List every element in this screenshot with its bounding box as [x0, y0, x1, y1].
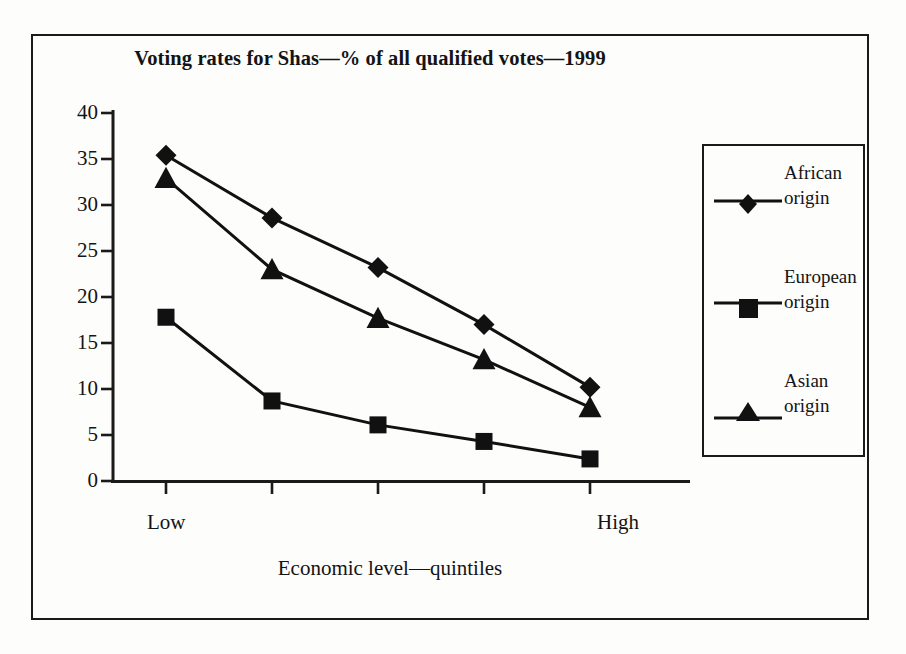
legend-marker-square-icon: [712, 294, 784, 320]
series-line: [166, 317, 590, 459]
data-series-layer: [155, 145, 602, 468]
y-tick-label-20: 20: [58, 284, 98, 309]
series-line: [166, 178, 590, 407]
legend-label-asian-line2: origin: [784, 393, 829, 418]
y-tick-label-5: 5: [58, 422, 98, 447]
data-point-marker: [580, 377, 601, 398]
x-axis-label-low: Low: [147, 510, 186, 535]
legend-label-african-line1: African: [784, 160, 842, 185]
legend-marker-triangle-icon: [712, 398, 784, 424]
y-tick-label-30: 30: [58, 192, 98, 217]
data-point-marker: [476, 433, 493, 450]
x-axis-label-high: High: [597, 510, 639, 535]
y-tick-label-40: 40: [58, 100, 98, 125]
legend-label-european: European origin: [784, 264, 857, 314]
y-tick-label-35: 35: [58, 146, 98, 171]
legend-label-asian: Asian origin: [784, 368, 829, 418]
y-tick-label-0: 0: [58, 468, 98, 493]
data-point-marker: [367, 307, 390, 328]
y-tick-label-10: 10: [58, 376, 98, 401]
legend-label-african-line2: origin: [784, 185, 842, 210]
figure-container: Voting rates for Shas—% of all qualified…: [0, 0, 906, 654]
legend-label-european-line1: European: [784, 264, 857, 289]
series-diamond: [156, 145, 601, 398]
data-point-marker: [368, 257, 389, 278]
data-point-marker: [473, 348, 496, 369]
data-point-marker: [158, 309, 175, 326]
data-point-marker: [156, 145, 177, 166]
legend: African origin European origin Asian ori…: [702, 144, 865, 457]
legend-label-asian-line1: Asian: [784, 368, 829, 393]
legend-marker-diamond-icon: [712, 190, 784, 216]
data-point-marker: [370, 416, 387, 433]
legend-entry-african[interactable]: African origin: [704, 160, 867, 234]
legend-label-african: African origin: [784, 160, 842, 210]
data-point-marker: [579, 396, 602, 417]
legend-label-european-line2: origin: [784, 289, 857, 314]
series-square: [158, 309, 599, 468]
y-tick-marks: [101, 113, 113, 481]
y-tick-label-15: 15: [58, 330, 98, 355]
data-point-marker: [582, 450, 599, 467]
x-axis-caption: Economic level—quintiles: [150, 556, 630, 581]
series-triangle: [155, 167, 602, 417]
data-point-marker: [155, 167, 178, 188]
data-point-marker: [264, 392, 281, 409]
legend-entry-asian[interactable]: Asian origin: [704, 368, 867, 442]
data-point-marker: [262, 207, 283, 228]
y-tick-label-25: 25: [58, 238, 98, 263]
data-point-marker: [474, 314, 495, 335]
legend-entry-european[interactable]: European origin: [704, 264, 867, 338]
